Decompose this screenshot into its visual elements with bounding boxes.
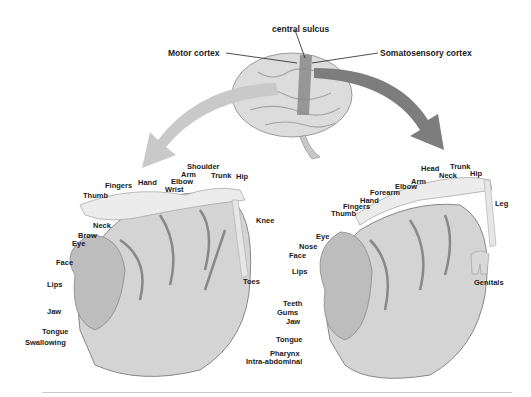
motor-label-swallowing: Swallowing xyxy=(25,339,66,347)
motor-cortex-label: Motor cortex xyxy=(168,49,219,58)
sensory-label-nose: Nose xyxy=(299,243,317,251)
sensory-label-thumb: Thumb xyxy=(331,210,356,218)
sensory-label-gums: Gums xyxy=(277,309,298,317)
motor-label-face: Face xyxy=(56,259,73,267)
motor-label-wrist: Wrist xyxy=(165,186,184,194)
motor-label-lips: Lips xyxy=(47,281,62,289)
sensory-label-trunk: Trunk xyxy=(450,163,470,171)
sensory-label-face: Face xyxy=(289,252,306,260)
motor-cortex-section xyxy=(70,188,251,376)
sensory-label-jaw: Jaw xyxy=(286,318,300,326)
sensory-label-hip: Hip xyxy=(470,170,482,178)
motor-label-jaw: Jaw xyxy=(47,308,61,316)
central-sulcus-label: central sulcus xyxy=(272,25,329,34)
bottom-divider xyxy=(42,392,512,393)
motor-label-eye: Eye xyxy=(72,240,85,248)
sensory-label-genitals: Genitals xyxy=(474,279,504,287)
diagram-canvas xyxy=(0,0,531,397)
motor-label-knee: Knee xyxy=(256,217,274,225)
sensory-label-leg: Leg xyxy=(495,200,508,208)
sensory-label-intra-abdominal: Intra-abdominal xyxy=(246,358,302,366)
motor-label-hip: Hip xyxy=(236,173,248,181)
sensory-label-lips: Lips xyxy=(292,268,307,276)
sensory-label-teeth: Teeth xyxy=(283,300,302,308)
sensory-label-neck: Neck xyxy=(439,172,457,180)
sensory-label-tongue: Tongue xyxy=(276,336,303,344)
sensory-label-head: Head xyxy=(421,165,439,173)
motor-label-trunk: Trunk xyxy=(211,172,231,180)
motor-label-tongue: Tongue xyxy=(42,328,69,336)
sensory-label-eye: Eye xyxy=(316,233,329,241)
motor-label-neck: Neck xyxy=(93,222,111,230)
motor-label-toes: Toes xyxy=(243,278,260,286)
motor-label-hand: Hand xyxy=(138,179,157,187)
motor-label-fingers: Fingers xyxy=(105,182,132,190)
somatosensory-cortex-label: Somatosensory cortex xyxy=(380,49,472,58)
motor-label-thumb: Thumb xyxy=(83,192,108,200)
